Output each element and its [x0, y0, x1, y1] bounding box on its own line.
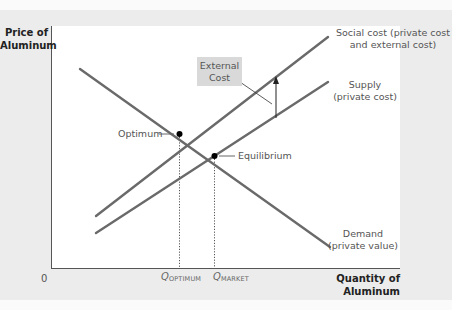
y-axis-title-line2: Aluminum: [0, 39, 48, 52]
origin-label: 0: [41, 273, 47, 285]
supply-label: Supply (private cost): [330, 79, 400, 103]
social-cost-label: Social cost (private cost and external c…: [334, 27, 452, 51]
x-axis-title-line1: Quantity of: [330, 272, 400, 285]
demand-label: Demand (private value): [326, 228, 400, 252]
demand-label-line2: (private value): [326, 240, 400, 252]
q-market-subscript: MARKET: [221, 275, 249, 283]
supply-label-line2: (private cost): [330, 91, 400, 103]
x-axis-title-line2: Aluminum: [330, 285, 400, 298]
y-axis-title: Price of Aluminum: [0, 26, 48, 52]
q-optimum-symbol: Q: [161, 271, 169, 282]
external-cost-line1: External: [197, 60, 242, 72]
equilibrium-point: [212, 153, 218, 159]
equilibrium-label: Equilibrium: [238, 150, 292, 162]
social-cost-label-line1: Social cost (private cost: [334, 27, 452, 39]
q-optimum-subscript: OPTIMUM: [169, 275, 201, 283]
q-optimum-label: QOPTIMUM: [161, 271, 201, 283]
social-cost-label-line2: and external cost): [334, 39, 452, 51]
q-market-label: QMARKET: [213, 271, 249, 283]
y-axis-title-line1: Price of: [0, 26, 48, 39]
supply-label-line1: Supply: [330, 79, 400, 91]
optimum-point: [177, 131, 183, 137]
x-axis-title: Quantity of Aluminum: [330, 272, 400, 298]
q-market-symbol: Q: [213, 271, 221, 282]
external-cost-line2: Cost: [197, 72, 242, 84]
external-cost-box: External Cost: [197, 57, 242, 86]
demand-label-line1: Demand: [326, 228, 400, 240]
optimum-label: Optimum: [118, 128, 162, 140]
